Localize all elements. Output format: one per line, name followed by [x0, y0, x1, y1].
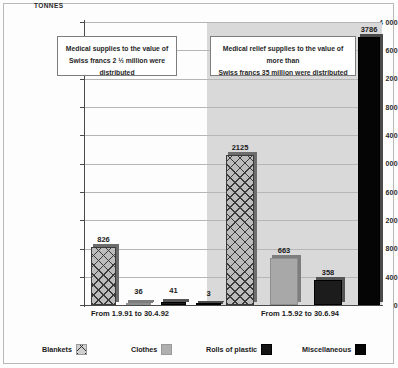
- dark-swatch-icon: [261, 344, 272, 355]
- bar-value-label: 36: [134, 287, 142, 296]
- bar-value-label: 3786: [361, 25, 378, 34]
- gridline-4000: [85, 22, 382, 23]
- bar-face: [161, 302, 186, 305]
- bar-face: [196, 303, 221, 305]
- bar-side-shade: [298, 255, 301, 302]
- legend-item-miscellaneous[interactable]: Miscellaneous: [302, 344, 366, 355]
- x-axis-line: [84, 305, 383, 306]
- legend-item-blankets[interactable]: Blankets: [42, 344, 87, 355]
- bar-blankets-period2[interactable]: 2125: [226, 155, 254, 305]
- bar-face: [126, 303, 151, 306]
- gray-swatch-icon: [161, 344, 172, 355]
- gridline-2800: [85, 107, 382, 108]
- bar-clothes-period1[interactable]: 36: [126, 303, 151, 306]
- bar-rolls-of-plastic-period2[interactable]: 358: [314, 280, 342, 305]
- bar-rolls-of-plastic-period1[interactable]: 41: [161, 302, 186, 305]
- bar-value-label: 41: [169, 286, 177, 295]
- black-swatch-icon: [355, 344, 366, 355]
- bar-side-shade: [116, 244, 119, 302]
- bar-value-label: 826: [97, 235, 110, 244]
- crosshatch-swatch-icon: [76, 344, 87, 355]
- legend-label: Rolls of plastic: [206, 345, 257, 354]
- bar-miscellaneous-period1[interactable]: 3: [196, 304, 221, 305]
- gridline-3200: [85, 79, 382, 80]
- bar-value-label: 663: [278, 246, 291, 255]
- bar-miscellaneous-period2[interactable]: 3786: [358, 37, 380, 305]
- annotation-line-2: Swiss francs 2 ½ million were distribute…: [63, 55, 171, 79]
- bar-face: [226, 155, 254, 305]
- gridline-2400: [85, 135, 382, 136]
- bar-value-label: 358: [322, 268, 335, 277]
- bar-value-label: 2125: [232, 143, 249, 152]
- annotation-line-1: Medical relief supplies to the value of …: [216, 43, 350, 67]
- legend-label: Clothes: [131, 345, 157, 354]
- x-axis-group-label-period1: From 1.9.91 to 30.4.92: [60, 309, 200, 318]
- bar-value-label: 3: [206, 289, 210, 298]
- y-axis-unit-label: TONNES: [34, 2, 63, 9]
- legend-label: Miscellaneous: [302, 345, 351, 354]
- annotation-line-1: Medical supplies to the value of: [63, 43, 171, 55]
- bar-blankets-period1[interactable]: 826: [91, 247, 116, 305]
- legend-item-clothes[interactable]: Clothes: [131, 344, 172, 355]
- bar-side-shade: [342, 277, 345, 302]
- bar-face: [358, 37, 380, 305]
- legend-label: Blankets: [42, 345, 72, 354]
- legend-item-rolls-of-plastic[interactable]: Rolls of plastic: [206, 344, 272, 355]
- bar-face: [270, 258, 298, 305]
- bar-face: [314, 280, 342, 305]
- bar-side-shade: [254, 152, 257, 302]
- bar-face: [91, 247, 116, 305]
- annotation-box-period2: Medical relief supplies to the value of …: [210, 36, 356, 76]
- x-axis-group-label-period2: From 1.5.92 to 30.6.94: [230, 309, 370, 318]
- bar-clothes-period2[interactable]: 663: [270, 258, 298, 305]
- chart-canvas: TONNES 4 000 3 600 3 200 2 800 2 400 2 0…: [0, 0, 398, 368]
- bar-side-shade: [380, 34, 383, 302]
- annotation-box-period1: Medical supplies to the value of Swiss f…: [57, 36, 177, 76]
- annotation-line-2: Swiss francs 35 million were distributed: [216, 67, 350, 79]
- chart-legend: Blankets Clothes Rolls of plastic Miscel…: [42, 344, 372, 360]
